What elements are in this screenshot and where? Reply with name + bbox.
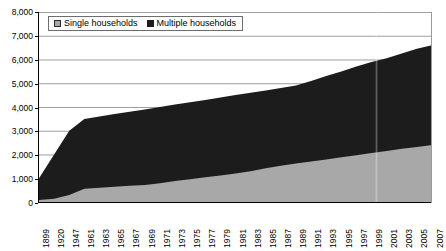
legend-item-multiple-households: Multiple households [147,18,237,28]
x-axis-label: 1981 [239,229,248,248]
x-axis-label: 1983 [254,229,263,248]
x-axis-label: 1920 [57,229,66,248]
legend-label-single-households: Single households [64,18,138,28]
chart-legend: Single households Multiple households [48,16,243,31]
multiple-households-swatch-icon [147,20,154,27]
y-axis-label: 4,000 [12,104,33,113]
x-axis-label: 1999 [375,229,384,248]
x-axis-label: 1947 [72,229,81,248]
x-axis-label: 1961 [87,229,96,248]
x-axis-label: 1997 [360,229,369,248]
x-axis-label: 2005 [420,229,429,248]
x-axis-label: 1993 [329,229,338,248]
x-axis-label: 1985 [269,229,278,248]
y-axis-label: 6,000 [12,56,33,65]
x-axis-label: 1975 [193,229,202,248]
plot-area [38,12,432,203]
y-axis-label: 2,000 [12,151,33,160]
y-axis-label: 0 [28,199,33,208]
x-axis-label: 1995 [345,229,354,248]
x-axis-label: 1965 [117,229,126,248]
x-axis-label: 1971 [163,229,172,248]
x-axis-label: 2003 [405,229,414,248]
x-axis-label: 1899 [42,229,51,248]
x-axis-label: 2001 [390,229,399,248]
y-axis-label: 5,000 [12,80,33,89]
legend-item-single-households: Single households [54,18,138,28]
legend-label-multiple-households: Multiple households [157,18,237,28]
x-axis-label: 1987 [284,229,293,248]
y-axis-label: 3,000 [12,127,33,136]
x-axis-label: 1991 [314,229,323,248]
x-axis-label: 1973 [178,229,187,248]
area-series-svg [39,12,432,202]
y-axis-label: 8,000 [12,8,33,17]
x-axis-label: 1967 [132,229,141,248]
y-axis-label: 1,000 [12,175,33,184]
plot-right-border [431,12,432,203]
x-axis: 1899192019471961196319651967196919711973… [38,204,432,251]
x-axis-label: 1977 [208,229,217,248]
single-households-swatch-icon [54,20,61,27]
y-axis-label: 7,000 [12,32,33,41]
x-axis-label: 2007 [436,229,445,248]
x-axis-label: 1989 [299,229,308,248]
x-axis-label: 1963 [102,229,111,248]
stacked-area-chart: 8,0007,0006,0005,0004,0003,0002,0001,000… [0,0,446,251]
x-axis-label: 1979 [223,229,232,248]
x-axis-label: 1969 [148,229,157,248]
y-axis: 8,0007,0006,0005,0004,0003,0002,0001,000… [0,0,36,215]
